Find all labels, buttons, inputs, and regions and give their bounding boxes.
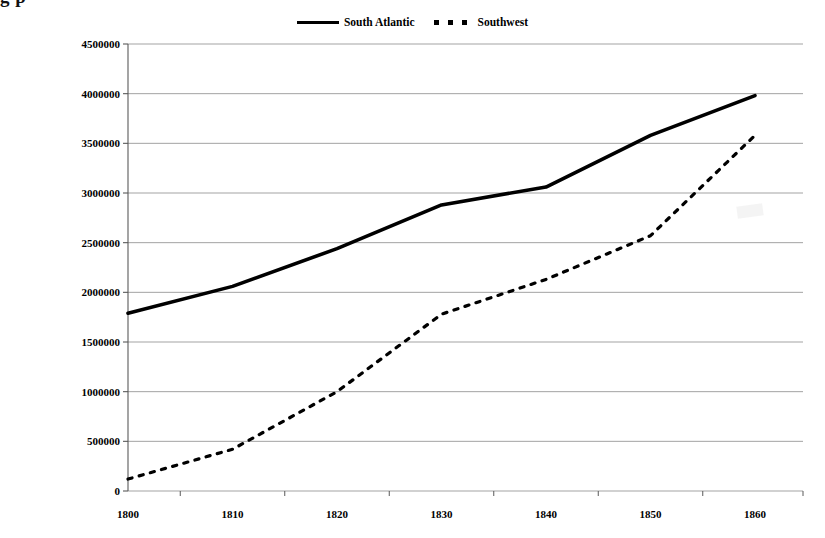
x-tick-label: 1840 <box>506 509 586 520</box>
plot-svg <box>0 0 825 538</box>
y-tick-label: 1000000 <box>46 386 120 397</box>
x-tick-label: 1820 <box>297 509 377 520</box>
gridlines <box>128 44 803 491</box>
series-layer <box>128 96 755 479</box>
y-tick-label: 4500000 <box>46 39 120 50</box>
x-tick-label: 1830 <box>402 509 482 520</box>
y-tick-label: 2500000 <box>46 237 120 248</box>
line-chart: g p South Atlantic Southwest 45000004000… <box>0 0 825 538</box>
y-tick-label: 0 <box>46 486 120 497</box>
x-tick-label: 1800 <box>88 509 168 520</box>
y-tick-label: 4000000 <box>46 88 120 99</box>
y-tick-label: 3000000 <box>46 188 120 199</box>
x-tick-label: 1860 <box>715 509 795 520</box>
y-tick-label: 500000 <box>46 436 120 447</box>
axis-ticks <box>123 44 803 496</box>
plot-area: 4500000400000035000003000000250000020000… <box>0 0 825 538</box>
x-tick-label: 1810 <box>193 509 273 520</box>
series-line-southwest <box>128 135 755 479</box>
series-line-south-atlantic <box>128 96 755 314</box>
x-tick-label: 1850 <box>611 509 691 520</box>
y-tick-label: 2000000 <box>46 287 120 298</box>
y-tick-label: 3500000 <box>46 138 120 149</box>
y-tick-label: 1500000 <box>46 337 120 348</box>
